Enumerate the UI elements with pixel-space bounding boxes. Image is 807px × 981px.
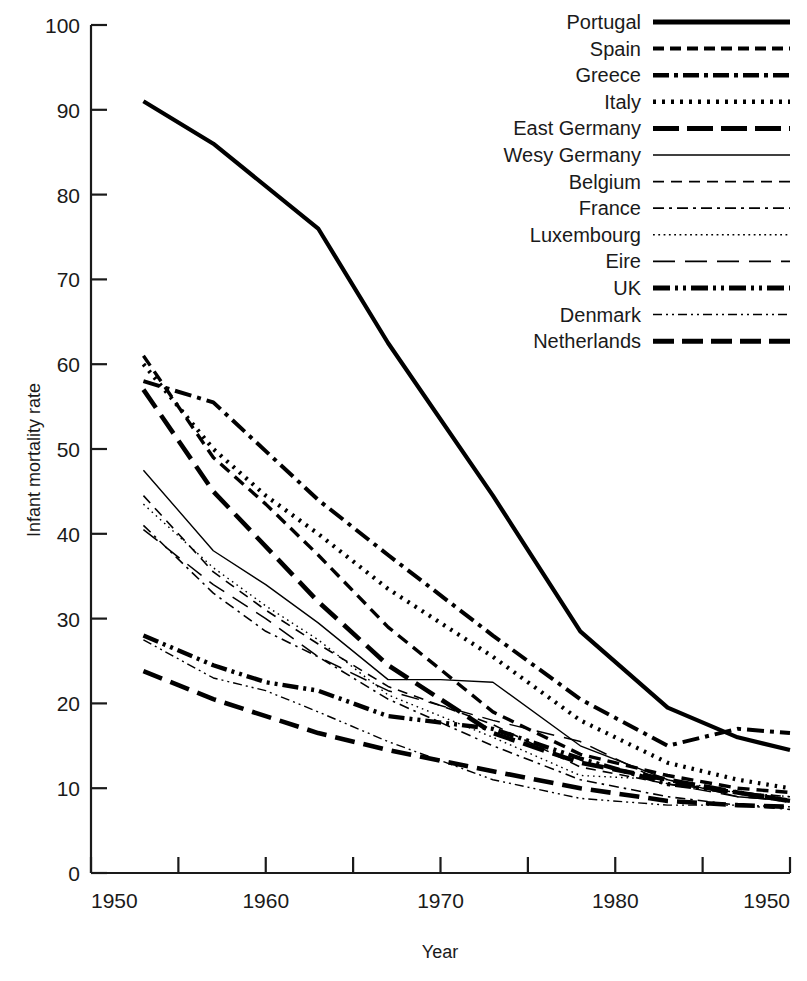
y-tick-label: 20 xyxy=(57,692,80,715)
legend-label: Belgium xyxy=(569,171,641,193)
legend-label: France xyxy=(579,197,641,219)
x-tick-label: 1960 xyxy=(242,889,289,912)
legend-label: Italy xyxy=(604,91,641,113)
legend-label: Denmark xyxy=(560,304,642,326)
legend-label: Spain xyxy=(590,38,641,60)
y-tick-label: 60 xyxy=(57,353,80,376)
y-tick-label: 90 xyxy=(57,99,80,122)
legend-label: Greece xyxy=(575,64,641,86)
y-tick-label: 70 xyxy=(57,268,80,291)
x-axis-title: Year xyxy=(422,942,458,962)
y-tick-label: 0 xyxy=(68,862,80,885)
chart-figure: 0102030405060708090100 19501960197019801… xyxy=(0,0,807,981)
legend-label: Netherlands xyxy=(533,330,641,352)
y-tick-label: 30 xyxy=(57,608,80,631)
x-tick-label: 1950 xyxy=(91,889,138,912)
legend-label: Wesy Germany xyxy=(504,144,641,166)
legend-label: Portugal xyxy=(567,11,642,33)
chart-background xyxy=(0,0,807,981)
legend-label: East Germany xyxy=(513,117,641,139)
x-tick-label: 1980 xyxy=(592,889,639,912)
legend-label: Eire xyxy=(605,250,641,272)
y-axis-title: Infant mortality rate xyxy=(24,383,44,537)
x-tick-label: 1950 xyxy=(743,889,790,912)
legend-label: UK xyxy=(613,277,641,299)
infant-mortality-line-chart: 0102030405060708090100 19501960197019801… xyxy=(0,0,807,981)
y-tick-label: 100 xyxy=(45,14,80,37)
y-tick-label: 40 xyxy=(57,523,80,546)
y-tick-label: 10 xyxy=(57,777,80,800)
x-tick-label: 1970 xyxy=(417,889,464,912)
legend-label: Luxembourg xyxy=(530,224,641,246)
y-tick-label: 80 xyxy=(57,184,80,207)
y-tick-label: 50 xyxy=(57,438,80,461)
